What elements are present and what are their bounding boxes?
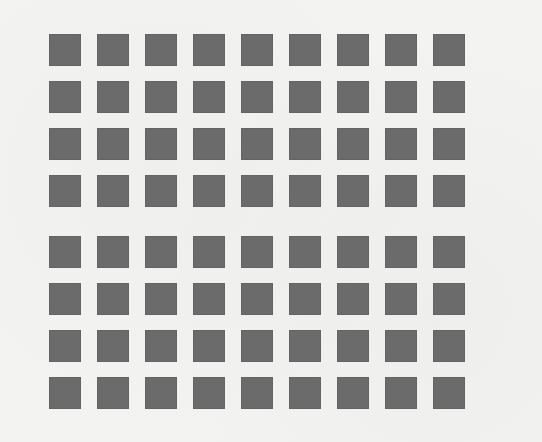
grid-square (97, 236, 129, 268)
grid-square (337, 34, 369, 66)
grid-square (97, 128, 129, 160)
grid-square (241, 236, 273, 268)
grid-square (49, 330, 81, 362)
grid-square (241, 377, 273, 409)
grid-square (385, 330, 417, 362)
grid-square (433, 34, 465, 66)
grid-square (193, 175, 225, 207)
grid-square (289, 175, 321, 207)
grid-square (289, 81, 321, 113)
grid-square (145, 175, 177, 207)
grid-square (433, 128, 465, 160)
grid-square (97, 34, 129, 66)
grid-square (289, 236, 321, 268)
grid-square (145, 377, 177, 409)
grid-square (145, 236, 177, 268)
grid-square (97, 377, 129, 409)
grid-square (433, 175, 465, 207)
grid-square (385, 81, 417, 113)
grid-square (49, 283, 81, 315)
grid-square (385, 175, 417, 207)
grid-square (49, 34, 81, 66)
grid-square (337, 377, 369, 409)
grid-square (193, 236, 225, 268)
grid-square (337, 128, 369, 160)
grid-square (193, 128, 225, 160)
grid-square (145, 34, 177, 66)
grid-square (385, 283, 417, 315)
grid-square (385, 34, 417, 66)
grid-square (97, 175, 129, 207)
grid-square (145, 283, 177, 315)
grid-square (337, 175, 369, 207)
grid-square (49, 81, 81, 113)
grid-square (49, 236, 81, 268)
grid-square (337, 81, 369, 113)
grid-square (241, 34, 273, 66)
grid-square (385, 128, 417, 160)
grid-square (385, 236, 417, 268)
grid-square (193, 283, 225, 315)
grid-square (241, 175, 273, 207)
grid-square (289, 34, 321, 66)
grid-square (97, 283, 129, 315)
grid-square (433, 81, 465, 113)
grid-square (433, 377, 465, 409)
grid-square (337, 330, 369, 362)
grid-square (193, 81, 225, 113)
grid-square (433, 283, 465, 315)
grid-square (241, 283, 273, 315)
grid-square (193, 34, 225, 66)
grid-square (289, 330, 321, 362)
grid-square (145, 128, 177, 160)
grid-square (289, 377, 321, 409)
grid-square (433, 330, 465, 362)
grid-square (289, 128, 321, 160)
grid-square (241, 128, 273, 160)
grid-square (97, 330, 129, 362)
square-grid-bottom (49, 236, 465, 409)
grid-square (49, 128, 81, 160)
grid-square (193, 377, 225, 409)
grid-square (97, 81, 129, 113)
grid-square (49, 377, 81, 409)
grid-square (193, 330, 225, 362)
grid-square (289, 283, 321, 315)
grid-square (145, 330, 177, 362)
grid-square (145, 81, 177, 113)
grid-square (241, 330, 273, 362)
grid-square (337, 236, 369, 268)
grid-square (433, 236, 465, 268)
square-grid-top (49, 34, 465, 207)
grid-square (337, 283, 369, 315)
grid-square (385, 377, 417, 409)
grid-square (241, 81, 273, 113)
grid-square (49, 175, 81, 207)
